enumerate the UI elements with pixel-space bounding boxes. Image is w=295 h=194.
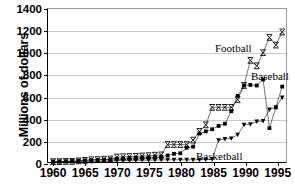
data-point-filled-square	[223, 122, 227, 126]
data-point-filled-square	[134, 156, 138, 160]
data-point-x-cross	[222, 104, 228, 110]
gridline	[48, 120, 286, 121]
data-point-x-cross	[76, 158, 82, 164]
sports-revenue-chart: Millions of dollars 02004006008001000120…	[0, 0, 295, 194]
data-point-triangle	[159, 158, 164, 162]
data-point-x-cross	[114, 154, 120, 160]
y-tick-label: 1400	[16, 3, 42, 15]
series-line	[53, 98, 282, 162]
data-point-triangle	[223, 137, 228, 141]
data-point-filled-square	[268, 126, 272, 130]
data-point-filled-square	[58, 160, 62, 164]
data-point-filled-square	[140, 156, 144, 160]
data-point-triangle	[95, 159, 100, 163]
gridline	[48, 31, 286, 32]
data-point-x-cross	[101, 156, 107, 162]
data-point-filled-square	[172, 152, 176, 156]
data-point-filled-square	[102, 158, 106, 162]
gridline	[48, 142, 286, 143]
y-tick-mark	[44, 142, 48, 143]
y-tick-label: 800	[23, 69, 42, 81]
data-point-filled-square	[255, 84, 259, 88]
data-point-filled-square	[108, 157, 112, 161]
y-tick-mark	[44, 9, 48, 10]
x-tick-label: 1990	[232, 166, 259, 180]
data-point-x-cross	[63, 159, 69, 165]
data-point-filled-square	[191, 145, 195, 149]
data-point-x-cross	[152, 152, 158, 158]
x-tick-label: 1975	[136, 166, 163, 180]
data-point-triangle	[140, 158, 145, 162]
data-point-x-cross	[248, 58, 254, 64]
data-point-triangle	[102, 159, 107, 163]
data-point-x-cross	[209, 104, 215, 110]
data-point-x-cross	[203, 122, 209, 128]
data-point-triangle	[76, 159, 81, 163]
data-point-x-cross	[108, 156, 114, 162]
data-point-filled-square	[248, 83, 252, 87]
data-point-filled-square	[217, 124, 221, 128]
data-point-triangle	[57, 160, 62, 164]
series-basketball	[51, 96, 285, 165]
y-tick-mark	[44, 120, 48, 121]
x-tick-label: 1995	[264, 166, 291, 180]
data-point-filled-square	[96, 158, 100, 162]
data-point-filled-square	[159, 155, 163, 159]
data-point-triangle	[242, 123, 247, 127]
data-point-triangle	[172, 158, 177, 162]
data-point-filled-square	[198, 132, 202, 136]
data-point-x-cross	[146, 153, 152, 159]
data-point-filled-square	[89, 158, 93, 162]
data-point-x-cross	[120, 154, 126, 160]
data-point-triangle	[235, 133, 240, 137]
y-tick-mark	[44, 164, 48, 165]
data-point-x-cross	[254, 63, 260, 69]
y-tick-label: 600	[23, 92, 42, 104]
data-point-filled-square	[153, 155, 157, 159]
series-label-football: Football	[215, 42, 252, 54]
data-point-triangle	[153, 158, 158, 162]
data-point-x-cross	[95, 157, 101, 163]
data-point-triangle	[184, 158, 189, 162]
x-tick-label: 1985	[200, 166, 227, 180]
y-tick-label: 200	[23, 136, 42, 148]
data-point-filled-square	[70, 159, 74, 163]
y-tick-label: 1200	[16, 25, 42, 37]
data-point-x-cross	[228, 104, 234, 110]
y-tick-mark	[44, 98, 48, 99]
data-point-filled-square	[77, 159, 81, 163]
plot-area: 0200400600800100012001400 19601965197019…	[47, 8, 287, 163]
data-point-triangle	[127, 158, 132, 162]
y-tick-mark	[44, 53, 48, 54]
data-point-filled-square	[242, 84, 246, 88]
data-point-filled-square	[280, 85, 284, 89]
data-point-filled-square	[166, 154, 170, 158]
data-point-x-cross	[69, 159, 75, 165]
series-label-basketball: Basketball	[196, 150, 242, 162]
data-point-x-cross	[267, 35, 273, 41]
y-tick-mark	[44, 75, 48, 76]
data-point-x-cross	[133, 153, 139, 159]
data-point-x-cross	[241, 83, 247, 89]
data-point-filled-square	[178, 151, 182, 155]
x-tick-label: 1970	[104, 166, 131, 180]
data-point-filled-square	[210, 127, 214, 131]
data-point-triangle	[191, 158, 196, 162]
data-point-triangle	[70, 160, 75, 164]
data-point-triangle	[274, 105, 279, 109]
data-point-filled-square	[274, 105, 278, 109]
data-point-x-cross	[139, 153, 145, 159]
data-point-triangle	[165, 158, 170, 162]
data-point-x-cross	[88, 157, 94, 163]
data-point-x-cross	[57, 159, 63, 165]
data-point-filled-square	[128, 156, 132, 160]
data-point-filled-square	[185, 146, 189, 150]
data-point-filled-square	[121, 157, 125, 161]
data-point-filled-square	[147, 156, 151, 160]
data-point-x-cross	[197, 129, 203, 135]
x-tick-label: 1960	[40, 166, 67, 180]
y-tick-label: 400	[23, 114, 42, 126]
data-point-filled-square	[229, 109, 233, 113]
data-point-filled-square	[204, 130, 208, 134]
y-tick-label: 1000	[16, 47, 42, 59]
